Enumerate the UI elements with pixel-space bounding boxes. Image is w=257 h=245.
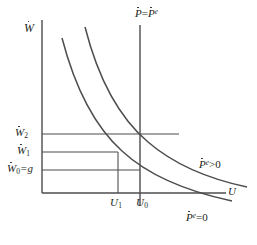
vertical-line-label: P=Pe bbox=[135, 8, 158, 19]
curve-label-lower-symbol: P bbox=[186, 212, 193, 223]
axis-tick-u1-symbol: U bbox=[110, 196, 118, 208]
axis-tick-u1: U1 bbox=[110, 197, 122, 209]
curve-pe-greater-0 bbox=[85, 27, 247, 187]
y-axis-label: W bbox=[24, 22, 34, 34]
x-axis-label: U bbox=[228, 186, 236, 197]
curve-pe-equals-0 bbox=[62, 38, 232, 201]
axis-tick-w2: W2 bbox=[15, 127, 28, 139]
x-axis-label-text: U bbox=[228, 185, 236, 197]
axis-tick-u1-sub: 1 bbox=[118, 201, 122, 210]
axis-tick-w0-symbol: W bbox=[7, 163, 16, 174]
vertical-line-label-right: P bbox=[148, 8, 155, 19]
axis-tick-u0: U0 bbox=[136, 197, 148, 209]
axis-tick-w2-symbol: W bbox=[15, 127, 24, 138]
y-axis-label-text: W bbox=[24, 22, 34, 34]
curve-label-upper-symbol: P bbox=[199, 159, 206, 170]
axis-tick-w1-sub: 1 bbox=[26, 149, 30, 158]
axis-tick-u0-symbol: U bbox=[136, 196, 144, 208]
axis-tick-w1-symbol: W bbox=[17, 145, 26, 156]
vertical-line-label-left: P bbox=[135, 8, 142, 19]
axis-tick-w2-sub: 2 bbox=[24, 131, 28, 140]
curve-label-upper: Pe>0 bbox=[199, 159, 221, 170]
axis-tick-w0-equals: =g bbox=[20, 162, 33, 174]
curve-label-lower: Pe=0 bbox=[186, 212, 208, 223]
axis-tick-u0-sub: 0 bbox=[144, 201, 148, 210]
vertical-line-label-sup: e bbox=[155, 8, 158, 16]
chart-canvas bbox=[0, 0, 257, 245]
curve-label-upper-op: >0 bbox=[209, 158, 221, 170]
curve-label-lower-op: =0 bbox=[196, 211, 208, 223]
axis-tick-w0: W0=g bbox=[7, 163, 33, 175]
phillips-curve-figure: W W2 W1 W0=g P=Pe U U1 U0 Pe>0 Pe=0 bbox=[0, 0, 257, 245]
axis-tick-w1: W1 bbox=[17, 145, 30, 157]
